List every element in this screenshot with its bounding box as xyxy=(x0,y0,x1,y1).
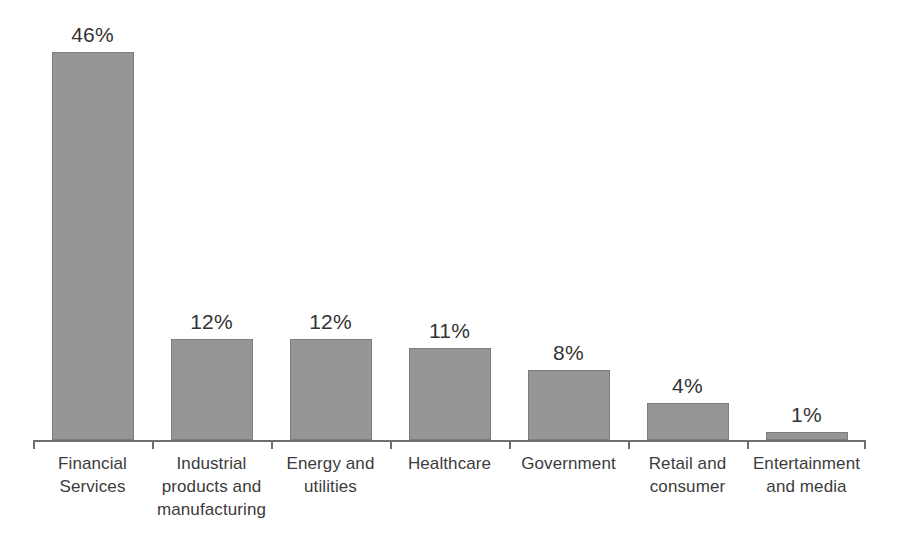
x-axis-line xyxy=(33,440,866,442)
axis-tick xyxy=(628,440,630,449)
bar-value-label: 12% xyxy=(309,311,352,333)
category-label-line: manufacturing xyxy=(152,498,271,521)
category-label-line: products and xyxy=(152,475,271,498)
bar-value-label: 1% xyxy=(791,404,822,426)
bar-value-label: 8% xyxy=(553,342,584,364)
bar-rect[interactable] xyxy=(647,403,729,440)
axis-tick xyxy=(271,440,273,449)
category-label: Industrial products and manufacturing xyxy=(152,452,271,521)
bar-rect[interactable] xyxy=(409,348,491,440)
category-label: Healthcare xyxy=(390,452,509,475)
category-label: Entertainment and media xyxy=(747,452,866,498)
category-label-line: Energy and xyxy=(271,452,390,475)
category-label-line: Entertainment xyxy=(747,452,866,475)
bar-value-label: 11% xyxy=(429,320,470,342)
bar-value-label: 46% xyxy=(71,24,114,46)
bar-slot: 1% xyxy=(747,10,866,440)
plot-area: 46% 12% 12% 11% 8% 4% 1% xyxy=(33,10,866,440)
bar-slot: 8% xyxy=(509,10,628,440)
category-label-line: and media xyxy=(747,475,866,498)
category-label: Financial Services xyxy=(33,452,152,498)
category-label: Retail and consumer xyxy=(628,452,747,498)
bar-rect[interactable] xyxy=(52,52,134,440)
bar-value-label: 4% xyxy=(672,375,703,397)
category-label-line: consumer xyxy=(628,475,747,498)
bar-slot: 46% xyxy=(33,10,152,440)
category-label-line: Healthcare xyxy=(390,452,509,475)
axis-tick xyxy=(152,440,154,449)
bar-slot: 11% xyxy=(390,10,509,440)
category-label: Government xyxy=(509,452,628,475)
axis-tick xyxy=(509,440,511,449)
axis-tick xyxy=(747,440,749,449)
category-label-line: utilities xyxy=(271,475,390,498)
bar-rect[interactable] xyxy=(528,370,610,440)
axis-tick xyxy=(390,440,392,449)
bar-rect[interactable] xyxy=(290,339,372,440)
bar-slot: 4% xyxy=(628,10,747,440)
axis-tick xyxy=(864,440,866,449)
category-label-line: Services xyxy=(33,475,152,498)
bar-rect[interactable] xyxy=(766,432,848,440)
category-label-line: Financial xyxy=(33,452,152,475)
x-axis-category-labels: Financial Services Industrial products a… xyxy=(33,452,866,532)
category-label-line: Retail and xyxy=(628,452,747,475)
bar-rect[interactable] xyxy=(171,339,253,440)
axis-tick xyxy=(33,440,35,449)
bar-slot: 12% xyxy=(271,10,390,440)
bar-chart: 46% 12% 12% 11% 8% 4% 1% xyxy=(0,0,898,535)
bar-slot: 12% xyxy=(152,10,271,440)
category-label-line: Government xyxy=(509,452,628,475)
category-label-line: Industrial xyxy=(152,452,271,475)
bar-value-label: 12% xyxy=(190,311,233,333)
category-label: Energy and utilities xyxy=(271,452,390,498)
